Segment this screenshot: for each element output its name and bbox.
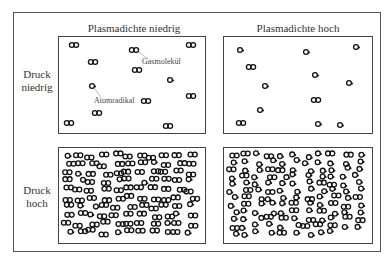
atom-radical-icon	[151, 160, 157, 165]
gas-molecule-icon	[344, 152, 353, 157]
atom-radical-icon	[228, 204, 234, 209]
atom-radical-icon	[303, 161, 309, 166]
gas-molecule-icon	[149, 206, 158, 211]
atom-radical-icon	[165, 221, 171, 226]
leader-line-radical	[94, 88, 101, 97]
atom-radical-icon	[358, 159, 364, 164]
gas-molecule-icon	[158, 169, 167, 174]
gas-molecule-icon	[125, 228, 134, 233]
atom-radical-icon	[270, 200, 276, 205]
atom-radical-icon	[347, 81, 353, 86]
atom-radical-icon	[346, 196, 352, 201]
atom-radical-icon	[304, 50, 310, 55]
gas-molecule-icon	[85, 155, 94, 160]
gas-molecule-icon	[102, 198, 111, 203]
atom-radical-icon	[234, 231, 240, 236]
atom-radical-icon	[241, 217, 247, 222]
gas-molecule-icon	[172, 153, 181, 158]
gas-molecule-icon	[277, 230, 286, 235]
atom-radical-icon	[294, 195, 300, 200]
atom-radical-icon	[357, 180, 363, 185]
gas-molecule-icon	[123, 154, 132, 159]
gas-molecule-icon	[64, 185, 73, 190]
atom-radical-icon	[231, 216, 237, 221]
gas-molecule-icon	[138, 196, 147, 201]
gas-molecule-icon	[241, 151, 250, 156]
gas-molecule-icon	[63, 177, 72, 182]
atom-radical-icon	[76, 171, 82, 176]
gas-molecule-icon	[97, 164, 106, 169]
gas-molecule-icon	[266, 167, 275, 172]
atom-radical-icon	[188, 202, 194, 207]
gas-molecule-icon	[153, 215, 162, 220]
gas-molecule-icon	[84, 188, 93, 193]
gas-molecule-icon	[317, 208, 326, 213]
atom-radical-icon	[68, 229, 74, 234]
gas-molecule-icon	[148, 185, 157, 190]
atom-radical-icon	[317, 194, 323, 199]
atom-radical-icon	[280, 181, 286, 186]
atom-radical-icon	[358, 210, 364, 215]
gas-molecule-icon	[279, 215, 288, 220]
gas-molecule-icon	[124, 185, 133, 190]
gas-molecule-icon	[76, 161, 85, 166]
atom-radical-icon	[284, 175, 290, 180]
atom-radical-icon	[345, 165, 351, 170]
gas-molecule-icon	[174, 168, 183, 173]
gas-molecule-icon	[329, 201, 338, 206]
gas-molecule-icon	[75, 198, 84, 203]
atom-radical-icon	[142, 180, 148, 185]
atom-radical-icon	[243, 168, 249, 173]
gas-molecule-icon	[190, 196, 199, 201]
gas-molecule-icon	[244, 188, 253, 193]
gas-molecule-icon	[136, 228, 145, 233]
atom-radical-icon	[328, 161, 334, 166]
atom-radical-icon	[252, 175, 258, 180]
gas-molecule-icon	[87, 196, 96, 201]
atom-radical-icon	[327, 229, 333, 234]
gas-molecule-icon	[332, 193, 341, 198]
gas-molecule-icon	[161, 163, 170, 168]
gas-molecule-icon	[173, 204, 182, 209]
gas-molecule-icon	[135, 221, 144, 226]
gas-molecule-icon	[186, 43, 195, 48]
gas-molecule-icon	[230, 226, 239, 231]
atom-radical-icon	[306, 155, 312, 160]
gas-molecule-icon	[150, 228, 159, 233]
gas-molecule-icon	[99, 203, 108, 208]
gas-molecule-icon	[162, 198, 171, 203]
gas-molecule-icon	[162, 176, 171, 181]
atom-radical-icon	[266, 180, 272, 185]
gas-molecule-icon	[73, 187, 82, 192]
atom-radical-icon	[174, 211, 180, 216]
atom-radical-icon	[278, 154, 284, 159]
atom-radical-icon	[242, 233, 248, 238]
gas-molecule-icon	[135, 170, 144, 175]
gas-molecule-icon	[134, 185, 143, 190]
atom-radical-icon	[322, 189, 328, 194]
gas-molecule-icon	[116, 196, 125, 201]
gas-molecule-icon	[178, 161, 187, 166]
gas-molecule-icon	[268, 175, 277, 180]
gas-molecule-icon	[186, 94, 195, 99]
gas-molecule-icon	[227, 167, 236, 172]
gas-molecule-icon	[289, 200, 298, 205]
atom-radical-icon	[309, 186, 315, 191]
gas-molecule-icon	[129, 48, 138, 53]
atom-radical-icon	[307, 208, 313, 213]
gas-molecule-icon	[101, 181, 110, 186]
atom-radical-icon	[292, 216, 298, 221]
atom-radical-icon	[90, 84, 96, 89]
atom-radical-icon	[263, 84, 269, 89]
gas-molecule-icon	[311, 98, 320, 103]
gas-molecule-icon	[73, 223, 82, 228]
gas-molecule-icon	[65, 212, 74, 217]
gas-molecule-icon	[101, 219, 110, 224]
gas-molecule-icon	[341, 204, 350, 209]
atom-radical-icon	[271, 158, 277, 163]
gas-molecule-icon	[356, 218, 365, 223]
gas-molecule-icon	[152, 197, 161, 202]
gas-molecule-icon	[313, 222, 322, 227]
atom-radical-icon	[238, 48, 244, 53]
atom-radical-icon	[186, 177, 192, 182]
